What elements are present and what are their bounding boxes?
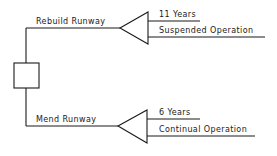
branch-label-rebuild: Rebuild Runway (36, 17, 105, 26)
branch-label-mend: Mend Runway (36, 115, 96, 124)
outcome-label-mend-time: 6 Years (159, 108, 191, 117)
outcome-label-mend-operation: Continual Operation (159, 125, 247, 134)
outcome-label-rebuild-time: 11 Years (159, 10, 196, 19)
chance-node-rebuild (120, 12, 148, 44)
outcome-label-rebuild-operation: Suspended Operation (159, 26, 253, 35)
decision-node (14, 63, 39, 88)
chance-node-mend (118, 110, 147, 143)
